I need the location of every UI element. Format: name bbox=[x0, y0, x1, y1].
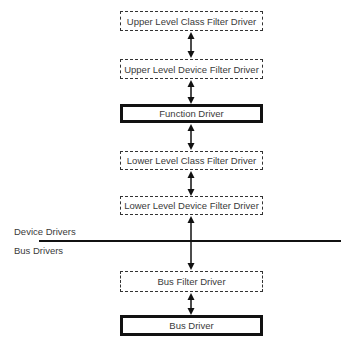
bidirectional-arrow-icon bbox=[185, 293, 197, 315]
upper-device-filter-box: Upper Level Device Filter Driver bbox=[120, 59, 263, 79]
box-label: Bus Driver bbox=[169, 320, 213, 331]
box-label: Function Driver bbox=[159, 108, 223, 119]
function-driver-box: Function Driver bbox=[120, 104, 263, 123]
bidirectional-arrow-icon bbox=[185, 216, 197, 270]
layer-divider-line bbox=[39, 240, 341, 242]
box-label: Lower Level Class Filter Driver bbox=[127, 155, 256, 166]
lower-class-filter-box: Lower Level Class Filter Driver bbox=[120, 151, 263, 170]
bidirectional-arrow-icon bbox=[185, 171, 197, 196]
box-label: Upper Level Device Filter Driver bbox=[124, 64, 259, 75]
bidirectional-arrow-icon bbox=[185, 124, 197, 150]
bidirectional-arrow-icon bbox=[185, 80, 197, 104]
box-label: Bus Filter Driver bbox=[157, 276, 225, 287]
upper-class-filter-box: Upper Level Class Filter Driver bbox=[120, 11, 263, 31]
box-label: Lower Level Device Filter Driver bbox=[124, 200, 259, 211]
bus-filter-box: Bus Filter Driver bbox=[120, 271, 263, 292]
box-label: Upper Level Class Filter Driver bbox=[127, 16, 256, 27]
bidirectional-arrow-icon bbox=[185, 32, 197, 58]
bus-driver-box: Bus Driver bbox=[120, 315, 263, 336]
bus-drivers-label: Bus Drivers bbox=[14, 245, 63, 256]
lower-device-filter-box: Lower Level Device Filter Driver bbox=[120, 196, 263, 215]
device-drivers-label: Device Drivers bbox=[14, 226, 76, 237]
